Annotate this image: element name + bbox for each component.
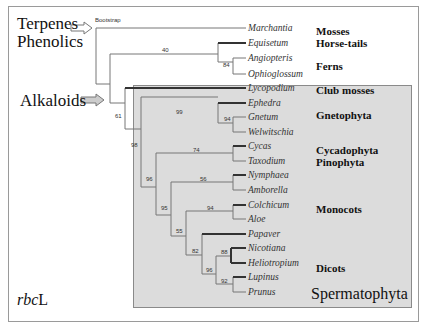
bootstrap-value: 98 xyxy=(131,142,138,149)
bootstrap-value: 88 xyxy=(221,249,228,256)
bootstrap-value: 95 xyxy=(161,205,168,212)
taxon-label: Prunus xyxy=(248,287,275,297)
taxon-label: Heliotropium xyxy=(248,258,299,268)
taxon-label: Welwitschia xyxy=(248,127,294,137)
taxon-label: Nymphaea xyxy=(248,170,289,180)
taxon-label: Ephedra xyxy=(248,98,281,108)
bootstrap-value: 82 xyxy=(192,248,199,255)
group-label-horsetails: Horse-tails xyxy=(316,37,367,49)
taxon-label: Aloe xyxy=(248,214,265,224)
phenolics-label: Phenolics xyxy=(17,32,83,51)
marker-label-italic: rbc xyxy=(17,291,38,308)
bootstrap-value: 55 xyxy=(176,228,183,235)
group-label-gnetophyta: Gnetophyta xyxy=(316,109,372,121)
group-label-club-mosses: Club mosses xyxy=(316,84,374,96)
taxon-label: Lupinus xyxy=(248,272,279,282)
group-label-mosses: Mosses xyxy=(316,25,350,37)
group-label-cycadophyta: Cycadophyta xyxy=(316,144,378,156)
bootstrap-value: 92 xyxy=(221,278,228,285)
group-label-dicots: Dicots xyxy=(316,262,345,274)
taxon-label: Amborella xyxy=(248,185,288,195)
spermatophyta-label: Spermatophyta xyxy=(311,285,408,303)
taxon-label: Equisetum xyxy=(248,38,288,48)
bootstrap-value: 40 xyxy=(162,47,169,54)
taxon-label: Taxodium xyxy=(248,156,285,166)
marker-label-plain: L xyxy=(38,291,48,308)
group-label-monocots: Monocots xyxy=(316,203,362,215)
taxon-label: Angiopteris xyxy=(248,53,292,63)
terpenes-label: Terpenes xyxy=(17,14,78,33)
taxon-label: Ophioglossum xyxy=(248,69,303,79)
bootstrap-value: 84 xyxy=(223,62,230,69)
taxon-label: Marchantia xyxy=(248,23,293,33)
bootstrap-value: 56 xyxy=(200,176,207,183)
taxon-label: Papaver xyxy=(248,229,280,239)
taxon-label: Nicotiana xyxy=(248,243,285,253)
group-label-ferns: Ferns xyxy=(316,60,343,72)
bootstrap-value: 96 xyxy=(146,176,153,183)
bootstrap-value: 61 xyxy=(115,113,122,120)
group-label-pinophyta: Pinophyta xyxy=(316,156,364,168)
bootstrap-value: 94 xyxy=(207,205,214,212)
taxon-label: Cycas xyxy=(248,141,271,151)
bootstrap-header: Bootstrap xyxy=(95,17,121,24)
taxon-label: Lycopodium xyxy=(248,83,295,93)
alkaloids-label: Alkaloids xyxy=(20,91,86,110)
taxon-label: Colchicum xyxy=(248,200,289,210)
bootstrap-value: 96 xyxy=(206,267,213,274)
bootstrap-value: 74 xyxy=(193,147,200,154)
marker-label: rbcL xyxy=(17,291,48,309)
bootstrap-value: 99 xyxy=(176,109,183,116)
taxon-label: Gnetum xyxy=(248,112,278,122)
bootstrap-value: 94 xyxy=(224,116,231,123)
